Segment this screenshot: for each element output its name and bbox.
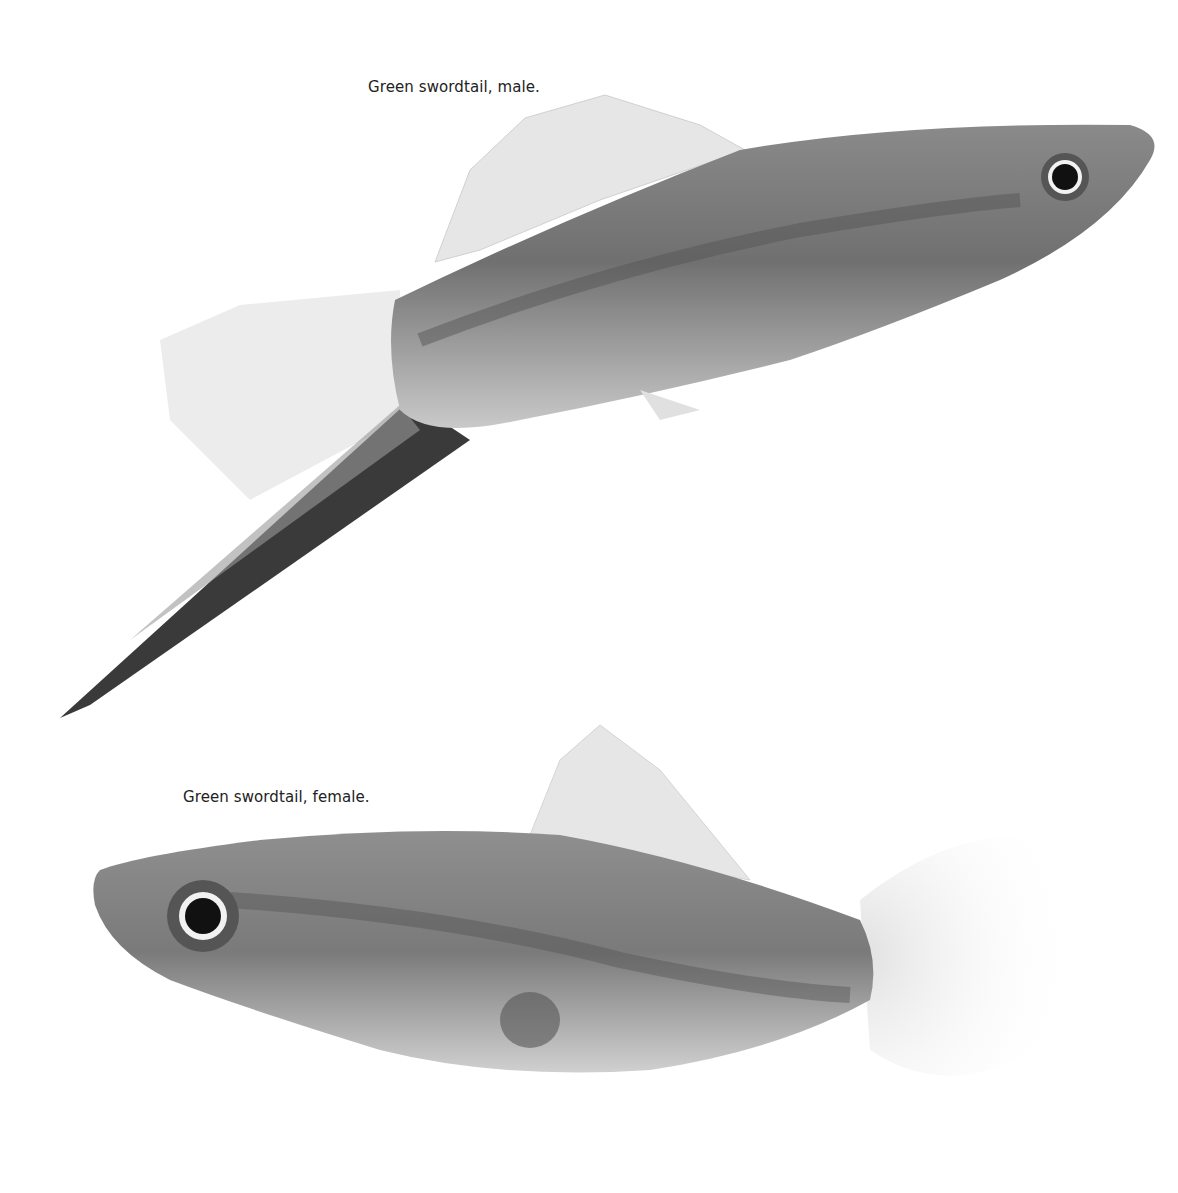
male-swordtail: [60, 95, 1155, 718]
female-body: [93, 831, 873, 1073]
female-swordtail: [93, 725, 1080, 1076]
female-tail-fin: [860, 836, 1080, 1076]
female-gravid-spot: [500, 992, 560, 1048]
male-pelvic-fin: [640, 390, 700, 420]
fish-illustrations: [0, 0, 1178, 1193]
